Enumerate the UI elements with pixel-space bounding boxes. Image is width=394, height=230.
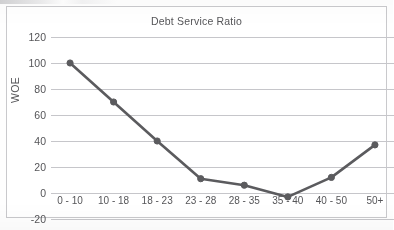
data-point (285, 194, 291, 200)
y-axis-tick-label: 80 (0, 83, 46, 95)
data-point (67, 60, 73, 66)
scan-artifact (0, 0, 150, 4)
plot-area: 120100806040200-20 0 - 1010 - 1818 - 232… (51, 37, 394, 219)
y-axis-tick-label: 40 (0, 135, 46, 147)
data-point (241, 182, 247, 188)
data-point (328, 174, 334, 180)
data-point (198, 176, 204, 182)
gridline (51, 219, 394, 220)
y-axis-tick-label: 20 (0, 161, 46, 173)
y-axis-tick-label: 0 (0, 187, 46, 199)
y-axis-tick-label: 100 (0, 57, 46, 69)
data-point (372, 142, 378, 148)
data-series (51, 37, 394, 219)
y-axis-tick-label: 120 (0, 31, 46, 43)
data-point (154, 138, 160, 144)
y-axis-tick-label: -20 (0, 213, 46, 225)
y-axis-tick-label: 60 (0, 109, 46, 121)
data-point (111, 99, 117, 105)
chart-title: Debt Service Ratio (7, 15, 386, 27)
plot-frame: Debt Service Ratio WOE 120100806040200-2… (6, 6, 387, 218)
series-markers (67, 60, 378, 200)
